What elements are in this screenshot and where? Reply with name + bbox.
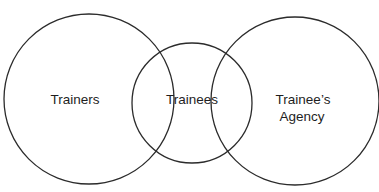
agency-label-line1: Trainee’s [276,92,331,107]
venn-svg: Trainers Trainees Trainee’s Agency [0,0,379,192]
agency-label-line2: Agency [279,109,324,124]
trainers-label: Trainers [50,92,99,107]
venn-diagram: Trainers Trainees Trainee’s Agency [0,0,379,192]
trainees-label: Trainees [166,92,218,107]
